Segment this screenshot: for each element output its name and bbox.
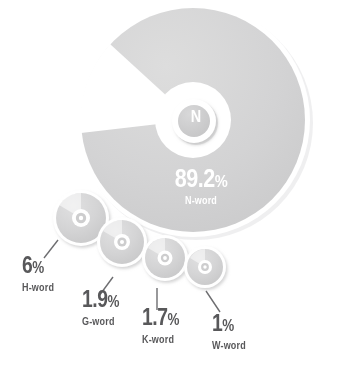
bubble-k-word [142,235,188,281]
bubble-w-word [184,246,226,288]
callout-k-value-number: 1.7 [142,304,168,330]
infographic-root: N 89.2% N-word 6% H-word 1.9% G-word 1.7… [0,0,355,383]
bubble-g-hub-dot [120,240,124,244]
callout-h-value: 6% [22,254,52,277]
bubble-k-hub-dot [163,256,167,260]
leader-line-w-word [206,291,220,312]
callout-w-percent-sign: % [222,317,234,334]
callout-w-value: 1% [212,312,244,335]
callout-h-word: 6% H-word [22,254,58,293]
main-donut-group [76,3,313,240]
callout-w-value-number: 1 [212,310,222,336]
callout-g-percent-sign: % [108,293,120,310]
callout-w-label: W-word [212,341,246,351]
callout-k-label: K-word [142,335,182,345]
callout-g-label: G-word [82,317,122,327]
callout-h-label: H-word [22,283,54,293]
callout-g-value: 1.9% [82,288,119,311]
callout-g-value-number: 1.9 [82,286,108,312]
bubble-h-hub-dot [79,216,83,220]
callout-k-value: 1.7% [142,306,179,329]
callout-h-value-number: 6 [22,252,32,278]
callout-k-word: 1.7% K-word [142,306,186,345]
callout-w-word: 1% W-word [212,312,250,351]
callout-k-percent-sign: % [168,311,180,328]
callout-g-word: 1.9% G-word [82,288,126,327]
callout-h-percent-sign: % [32,259,44,276]
bubble-g-word [97,217,147,267]
bubble-w-hub-dot [203,265,206,268]
hub-badge-circle [178,105,210,137]
